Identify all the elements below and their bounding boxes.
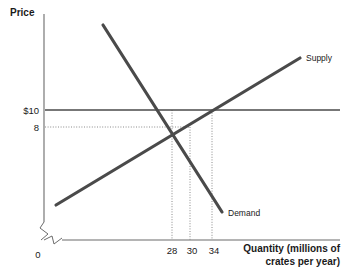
y-tick-label-8: 8 <box>34 122 39 133</box>
x-tick-label-30: 30 <box>187 245 198 256</box>
x-axis-break-icon <box>44 236 62 244</box>
origin-label: 0 <box>35 249 40 260</box>
y-axis-break-icon <box>40 222 48 240</box>
x-tick-label-34: 34 <box>209 245 220 256</box>
supply-curve <box>56 58 300 205</box>
y-axis-title: Price <box>10 7 35 18</box>
x-axis-title-line1: Quantity (millions of <box>243 243 340 254</box>
chart-canvas: Price Quantity (millions of crates per y… <box>0 0 353 278</box>
x-tick-label-28: 28 <box>167 245 178 256</box>
supply-demand-chart: Price Quantity (millions of crates per y… <box>0 0 353 278</box>
x-axis-title-line2: crates per year) <box>266 256 341 267</box>
y-tick-label-10: $10 <box>23 105 39 116</box>
demand-curve-label: Demand <box>228 208 260 218</box>
supply-curve-label: Supply <box>306 53 333 63</box>
demand-curve <box>103 25 222 212</box>
